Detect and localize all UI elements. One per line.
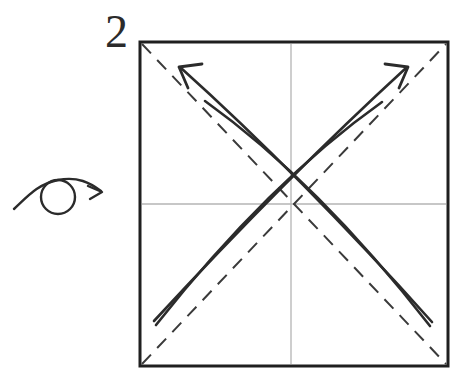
turn-over-symbol [14, 179, 102, 214]
turn-over-loop-circle [41, 180, 75, 214]
turn-over-arrowhead-icon [88, 186, 102, 199]
diagram-canvas: 2 [0, 0, 465, 387]
origami-diagram: 2 [0, 0, 465, 387]
turn-over-tail-arc [14, 179, 101, 209]
step-number-label: 2 [105, 6, 128, 57]
